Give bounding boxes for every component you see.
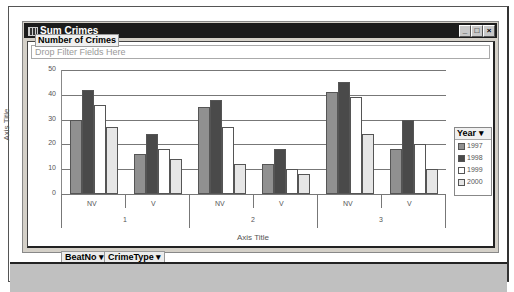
category-label: NV [343,200,353,207]
y-axis-title: Axis Title [2,108,11,140]
legend-label: 1998 [467,154,483,161]
y-tick-label: 40 [36,90,56,97]
axis-separator [381,194,382,208]
bar-2000[interactable] [106,127,118,194]
bar-1999[interactable] [350,97,362,194]
bar-1999[interactable] [286,169,298,194]
legend-label: 1999 [467,166,483,173]
bar-2000[interactable] [362,134,374,194]
filter-drop-zone[interactable]: Drop Filter Fields Here [31,45,490,59]
y-tick-label: 50 [36,65,56,72]
bar-1999[interactable] [94,105,106,194]
bar-1997[interactable] [326,92,338,194]
axis-separator [189,194,190,228]
bar-2000[interactable] [170,159,182,194]
gridline [62,95,446,96]
category-label: V [407,200,412,207]
bar-2000[interactable] [234,164,246,194]
legend-item: 1999 [455,164,491,176]
gridline [62,169,446,170]
legend-swatch-icon [458,143,465,150]
category-label: NV [215,200,225,207]
group-label: 2 [251,216,255,223]
legend-item: 1998 [455,152,491,164]
status-bar [10,262,507,292]
gridline [62,120,446,121]
bar-1998[interactable] [82,90,94,194]
group-label: 1 [123,216,127,223]
bar-1997[interactable] [134,154,146,194]
minimize-button[interactable]: _ [459,25,471,37]
bar-2000[interactable] [298,174,310,194]
legend-item: 1997 [455,140,491,152]
legend-item: 2000 [455,176,491,188]
bar-1997[interactable] [70,120,82,194]
bar-2000[interactable] [426,169,438,194]
bar-1998[interactable] [338,82,350,194]
gridline [62,70,446,71]
axis-separator [253,194,254,208]
group-label: 3 [379,216,383,223]
bar-1997[interactable] [390,149,402,194]
bar-1998[interactable] [146,134,158,194]
bar-1997[interactable] [262,164,274,194]
legend-swatch-icon [458,155,465,162]
y-tick-label: 0 [36,189,56,196]
bar-1998[interactable] [274,149,286,194]
close-button[interactable]: × [483,25,495,37]
bar-1997[interactable] [198,107,210,194]
x-axis-line [62,194,446,195]
chart-title[interactable]: Number of Crimes [35,34,119,47]
axis-separator [61,194,62,228]
legend: Year ▾ 1997199819992000 [454,127,492,196]
y-tick-label: 30 [36,115,56,122]
bar-1998[interactable] [402,120,414,194]
legend-year-dropdown[interactable]: Year ▾ [455,128,491,140]
legend-label: 2000 [467,178,483,185]
bar-1999[interactable] [414,144,426,194]
y-tick-label: 20 [36,139,56,146]
legend-swatch-icon [458,179,465,186]
category-label: V [151,200,156,207]
plot-area [61,70,446,194]
axis-separator [317,194,318,228]
category-label: NV [87,200,97,207]
bar-1998[interactable] [210,100,222,194]
x-axis-title: Axis Title [237,233,269,242]
maximize-button[interactable]: □ [471,25,483,37]
axis-separator [445,194,446,228]
gridline [62,144,446,145]
axis-separator [125,194,126,208]
y-tick-label: 10 [36,164,56,171]
category-label: V [279,200,284,207]
bar-1999[interactable] [158,149,170,194]
bar-1999[interactable] [222,127,234,194]
legend-label: 1997 [467,142,483,149]
legend-swatch-icon [458,167,465,174]
